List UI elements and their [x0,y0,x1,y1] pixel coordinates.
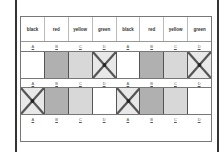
header-cell: green [93,17,117,41]
answer-box-dark[interactable] [140,52,164,78]
label-row-1: A B C D A B C D [21,42,211,50]
label-row-3: A B C D A B C D [21,115,211,123]
answer-box-light[interactable] [164,52,188,78]
option-label: A [21,42,45,50]
option-label: A [116,115,140,123]
header-cell: red [140,17,164,41]
option-label: C [69,115,93,123]
answer-panel: black red yellow green black red yellow … [20,16,212,142]
option-label: D [92,42,116,50]
option-label: C [69,79,93,87]
label-row-2: A B C D A B C D [21,79,211,87]
answer-box-white[interactable] [93,88,117,114]
answer-box-light[interactable] [164,88,188,114]
header-cell: yellow [69,17,93,41]
option-label: B [45,79,69,87]
option-label: B [45,42,69,50]
header-cell: yellow [164,17,188,41]
option-label: A [116,79,140,87]
header-cell: black [117,17,141,41]
header-cell: black [21,17,45,41]
option-label: A [21,115,45,123]
crossed-answer-box[interactable] [21,88,45,114]
option-label: B [45,115,69,123]
option-label: C [69,42,93,50]
option-label: B [140,115,164,123]
header-cell: green [188,17,211,41]
cross-mark-icon [117,88,140,114]
cross-mark-icon [188,52,211,78]
option-label: C [164,79,188,87]
answer-box-dark[interactable] [140,88,164,114]
right-border-line [217,0,219,152]
crossed-answer-box[interactable] [117,88,141,114]
cross-mark-icon [21,88,44,114]
option-label: D [92,115,116,123]
option-label: C [164,42,188,50]
option-label: D [187,42,211,50]
answer-box-white[interactable] [188,88,211,114]
answer-box-light[interactable] [69,88,93,114]
option-label: D [187,115,211,123]
crossed-answer-box[interactable] [188,52,211,78]
option-label: D [92,79,116,87]
option-label: D [187,79,211,87]
header-cell: red [45,17,69,41]
option-label: B [140,42,164,50]
answer-box-light[interactable] [69,52,93,78]
box-row-1 [21,51,211,79]
option-label: A [116,42,140,50]
option-label: A [21,79,45,87]
left-border-line [15,0,17,152]
answer-box-dark[interactable] [45,88,69,114]
answer-box-white[interactable] [117,52,141,78]
header-row: black red yellow green black red yellow … [21,17,211,42]
box-row-2 [21,87,211,115]
crossed-answer-box[interactable] [93,52,117,78]
option-label: C [164,115,188,123]
option-label: B [140,79,164,87]
cross-mark-icon [93,52,116,78]
answer-box-white[interactable] [21,52,45,78]
answer-box-dark[interactable] [45,52,69,78]
